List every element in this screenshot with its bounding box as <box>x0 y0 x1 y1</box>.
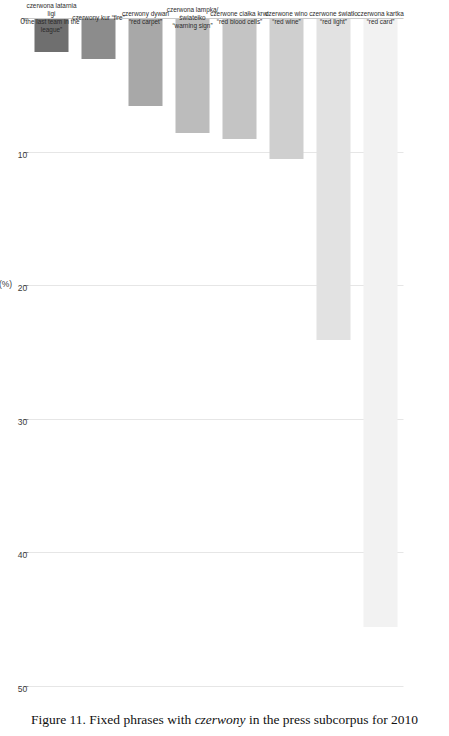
tick-label: 10 <box>2 150 42 160</box>
caption-italic-term: czerwony <box>195 712 246 727</box>
caption-text-before: Fixed phrases with <box>86 712 195 727</box>
bar <box>316 19 350 340</box>
gridline <box>28 686 403 687</box>
figure-caption: Figure 11. Fixed phrases with czerwony i… <box>0 712 449 728</box>
axis-title: (%) <box>0 279 12 289</box>
bar-series <box>28 18 403 686</box>
tick-label: 50 <box>2 684 42 694</box>
category-label: czerwona latarnia ligi “the last team in… <box>0 2 111 34</box>
bar <box>363 19 397 627</box>
bar <box>128 19 162 106</box>
figure-container: 01020304050 czerwona kartka “red card”cz… <box>0 0 449 736</box>
caption-text-after: in the press subcorpus for 2010 <box>246 712 418 727</box>
tick-label: 30 <box>2 417 42 427</box>
caption-prefix: Figure 11. <box>31 712 86 727</box>
plot-area: 01020304050 czerwona kartka “red card”cz… <box>28 18 403 686</box>
bar <box>222 19 256 139</box>
chart-stage: 01020304050 czerwona kartka “red card”cz… <box>0 0 449 736</box>
bar <box>269 19 303 159</box>
bar <box>175 19 209 133</box>
tick-label: 40 <box>2 550 42 560</box>
